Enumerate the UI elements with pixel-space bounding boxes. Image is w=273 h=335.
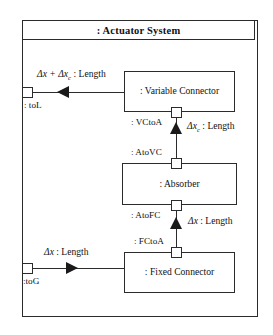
port-label-fctoa: : FCtoA bbox=[134, 236, 164, 246]
port-label-atofc: : AtoFC bbox=[131, 210, 160, 220]
port-atovc[interactable] bbox=[171, 158, 182, 169]
flow-subscript: c bbox=[68, 74, 71, 81]
diagram-canvas: : Actuator System : Variable Connector :… bbox=[0, 0, 273, 335]
connector-line-tol-to-variable-connector bbox=[33, 92, 124, 93]
port-vctoa[interactable] bbox=[171, 107, 182, 118]
connector-line-variable-connector-to-absorber bbox=[176, 112, 177, 159]
port-fctoa[interactable] bbox=[171, 247, 182, 258]
flow-type: : Length bbox=[74, 68, 106, 79]
connector-line-tog-to-fixed-connector bbox=[33, 268, 124, 269]
port-label-vctoa: : VCtoA bbox=[131, 117, 162, 127]
flow-label-delta-x-bottom: Δx : Length bbox=[44, 246, 89, 257]
flow-subscript: c bbox=[197, 126, 200, 133]
flow-expression: Δx bbox=[188, 215, 198, 226]
flow-type: : Length bbox=[200, 215, 232, 226]
flow-type: : Length bbox=[202, 120, 234, 131]
flow-label-delta-x-plus-delta-xc: Δx + Δxc : Length bbox=[37, 68, 106, 81]
part-label-absorber: : Absorber bbox=[122, 178, 237, 189]
arrowhead-right-icon bbox=[66, 262, 78, 274]
arrowhead-up-icon bbox=[170, 122, 182, 134]
arrowhead-up-icon bbox=[170, 217, 182, 229]
port-tol[interactable] bbox=[22, 87, 33, 98]
flow-label-delta-xc: Δxc : Length bbox=[187, 120, 235, 133]
page-title: : Actuator System bbox=[22, 21, 255, 40]
flow-label-delta-x-lower: Δx : Length bbox=[188, 215, 233, 226]
port-label-tol: : toL bbox=[24, 100, 42, 110]
flow-expression: Δx bbox=[187, 120, 197, 131]
port-label-tog: :toG bbox=[23, 276, 39, 286]
port-tog[interactable] bbox=[22, 263, 33, 274]
port-atofc[interactable] bbox=[171, 200, 182, 211]
part-label-fixed-connector: : Fixed Connector bbox=[124, 266, 235, 277]
flow-expression: Δx bbox=[44, 246, 54, 257]
arrowhead-left-icon bbox=[57, 86, 69, 98]
flow-expression: Δx + Δx bbox=[37, 68, 68, 79]
part-label-variable-connector: : Variable Connector bbox=[124, 85, 235, 96]
flow-type: : Length bbox=[56, 246, 88, 257]
port-label-atovc: : AtoVC bbox=[131, 147, 162, 157]
